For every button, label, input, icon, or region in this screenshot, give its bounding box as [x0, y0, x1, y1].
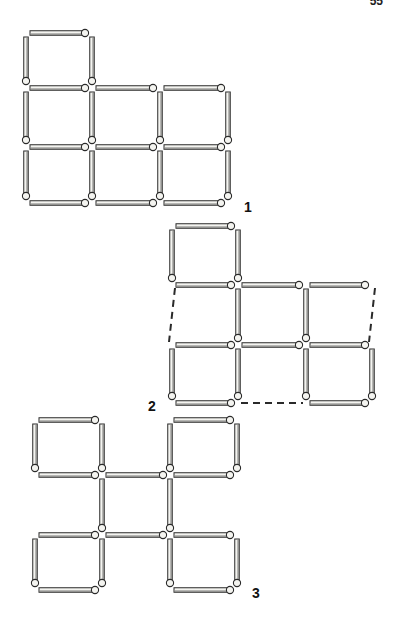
- match-head-icon: [98, 579, 105, 586]
- matchstick-horizontal: [176, 341, 235, 348]
- match-head-icon: [166, 524, 173, 531]
- match-head-icon: [227, 399, 234, 406]
- match-head-icon: [217, 84, 224, 91]
- match-head-icon: [233, 464, 240, 471]
- matchstick-vertical: [31, 539, 38, 587]
- match-head-icon: [31, 464, 38, 471]
- matchstick-horizontal: [96, 84, 157, 91]
- match-head-icon: [302, 392, 309, 399]
- matchstick-horizontal: [174, 416, 234, 423]
- figure-1: [22, 29, 231, 206]
- match-head-icon: [234, 334, 241, 341]
- match-head-icon: [149, 143, 156, 150]
- figure-label-1: 1: [244, 199, 252, 215]
- match-head-icon: [361, 281, 368, 288]
- matchstick-horizontal: [96, 199, 157, 206]
- matchstick-horizontal: [176, 399, 235, 406]
- match-head-icon: [31, 579, 38, 586]
- match-head-icon: [361, 399, 368, 406]
- match-head-icon: [233, 579, 240, 586]
- match-head-icon: [22, 77, 29, 84]
- matchstick-horizontal: [30, 143, 89, 150]
- match-head-icon: [361, 341, 368, 348]
- matchstick-horizontal: [96, 143, 157, 150]
- matchstick-horizontal: [30, 29, 89, 36]
- match-head-icon: [22, 136, 29, 143]
- match-head-icon: [166, 464, 173, 471]
- matchstick-vertical: [302, 289, 309, 342]
- matchstick-vertical: [234, 230, 241, 282]
- matchstick-vertical: [234, 349, 241, 400]
- match-head-icon: [81, 29, 88, 36]
- matchstick-vertical: [302, 349, 309, 400]
- matchstick-horizontal: [174, 531, 234, 538]
- matchstick-vertical: [88, 37, 95, 85]
- matchstick-horizontal: [106, 471, 167, 478]
- matchstick-vertical: [234, 289, 241, 342]
- matchstick-vertical: [22, 37, 29, 85]
- match-head-icon: [227, 222, 234, 229]
- match-head-icon: [302, 334, 309, 341]
- matchstick-vertical: [22, 92, 29, 144]
- match-head-icon: [224, 136, 231, 143]
- matchstick-horizontal: [174, 586, 234, 593]
- matchstick-horizontal: [39, 531, 99, 538]
- matchstick-vertical: [22, 151, 29, 200]
- match-head-icon: [81, 84, 88, 91]
- match-head-icon: [88, 136, 95, 143]
- match-head-icon: [91, 416, 98, 423]
- match-head-icon: [295, 281, 302, 288]
- matchstick-horizontal: [310, 399, 369, 406]
- match-head-icon: [156, 136, 163, 143]
- matchstick-horizontal: [39, 416, 99, 423]
- removed-match-dashed-line: [369, 288, 375, 342]
- match-head-icon: [22, 192, 29, 199]
- match-head-icon: [159, 531, 166, 538]
- matchstick-horizontal: [242, 341, 303, 348]
- matchstick-horizontal: [176, 281, 235, 288]
- matchstick-vertical: [156, 92, 163, 144]
- match-head-icon: [88, 192, 95, 199]
- matchstick-vertical: [88, 92, 95, 144]
- match-head-icon: [168, 274, 175, 281]
- matchstick-horizontal: [164, 199, 225, 206]
- matchstick-horizontal: [176, 222, 235, 229]
- matchstick-vertical: [368, 349, 375, 400]
- match-head-icon: [91, 531, 98, 538]
- matchstick-horizontal: [164, 84, 225, 91]
- match-head-icon: [88, 77, 95, 84]
- removed-match-dashed-line: [169, 288, 175, 342]
- matchstick-vertical: [88, 151, 95, 200]
- matchstick-puzzle-diagram: [0, 0, 395, 622]
- matchstick-vertical: [233, 424, 240, 472]
- match-head-icon: [156, 192, 163, 199]
- matchstick-vertical: [31, 424, 38, 472]
- matchstick-vertical: [166, 479, 173, 532]
- match-head-icon: [149, 199, 156, 206]
- match-head-icon: [234, 392, 241, 399]
- matchstick-vertical: [166, 424, 173, 472]
- match-head-icon: [224, 192, 231, 199]
- match-head-icon: [98, 524, 105, 531]
- match-head-icon: [217, 199, 224, 206]
- matchstick-horizontal: [30, 199, 89, 206]
- match-head-icon: [91, 586, 98, 593]
- match-head-icon: [159, 471, 166, 478]
- match-head-icon: [368, 392, 375, 399]
- match-head-icon: [81, 143, 88, 150]
- match-head-icon: [295, 341, 302, 348]
- match-head-icon: [166, 579, 173, 586]
- matchstick-vertical: [156, 151, 163, 200]
- matchstick-vertical: [166, 539, 173, 587]
- match-head-icon: [149, 84, 156, 91]
- figure-label-2: 2: [148, 398, 156, 414]
- figure-3: [31, 416, 240, 593]
- matchstick-horizontal: [39, 471, 99, 478]
- match-head-icon: [168, 392, 175, 399]
- match-head-icon: [98, 464, 105, 471]
- match-head-icon: [226, 586, 233, 593]
- matchstick-vertical: [98, 479, 105, 532]
- matchstick-horizontal: [310, 341, 369, 348]
- matchstick-horizontal: [39, 586, 99, 593]
- figure-label-3: 3: [252, 585, 260, 601]
